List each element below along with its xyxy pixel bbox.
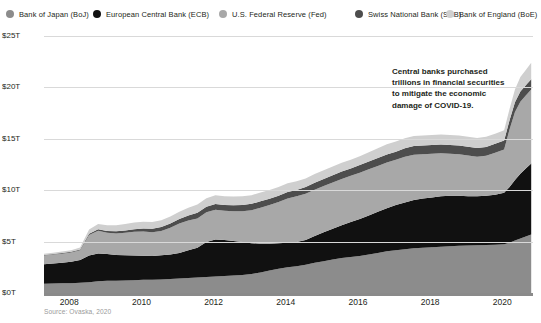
legend-swatch-boe-icon xyxy=(446,10,454,18)
covid-annotation: Central banks purchased trillions in fin… xyxy=(392,66,538,111)
y-tick-$0T: $0T xyxy=(2,288,42,297)
legend-label-fed: U.S. Federal Reserve (Fed) xyxy=(232,10,327,19)
y-tick-$5T: $5T xyxy=(2,237,42,246)
legend-item-boj[interactable]: Bank of Japan (BoJ) xyxy=(6,10,89,19)
x-tick-2018: 2018 xyxy=(421,297,440,307)
x-tick-2020: 2020 xyxy=(493,297,512,307)
legend-swatch-fed-icon xyxy=(219,10,227,18)
x-tick-2012: 2012 xyxy=(204,297,223,307)
legend-swatch-boj-icon xyxy=(6,10,14,18)
annotation-line-3: to mitigate the economic xyxy=(392,88,538,99)
source-note: Source: Ovaska, 2020 xyxy=(44,308,111,315)
annotation-line-4: damage of COVID-19. xyxy=(392,100,538,111)
gridline-$15T xyxy=(44,139,533,140)
y-tick-$15T: $15T xyxy=(2,134,42,143)
legend-item-ecb[interactable]: European Central Bank (ECB) xyxy=(93,10,209,19)
gridline-$10T xyxy=(44,190,533,191)
legend-label-boj: Bank of Japan (BoJ) xyxy=(19,10,89,19)
central-bank-balance-sheet-chart: Bank of Japan (BoJ)European Central Bank… xyxy=(0,0,541,323)
annotation-line-1: Central banks purchased xyxy=(392,66,538,77)
gridline-$5T xyxy=(44,242,533,243)
gridline-$25T xyxy=(44,36,533,37)
x-axis-baseline xyxy=(44,293,533,296)
x-tick-2008: 2008 xyxy=(60,297,79,307)
legend-item-fed[interactable]: U.S. Federal Reserve (Fed) xyxy=(219,10,327,19)
legend-label-boe: Bank of England (BoE) xyxy=(459,10,537,19)
x-tick-2010: 2010 xyxy=(132,297,151,307)
chart-legend: Bank of Japan (BoJ)European Central Bank… xyxy=(0,6,541,22)
y-tick-$20T: $20T xyxy=(2,82,42,91)
legend-label-ecb: European Central Bank (ECB) xyxy=(106,10,209,19)
legend-swatch-snb-icon xyxy=(355,10,363,18)
x-tick-2014: 2014 xyxy=(276,297,295,307)
legend-swatch-ecb-icon xyxy=(93,10,101,18)
legend-item-boe[interactable]: Bank of England (BoE) xyxy=(446,10,537,19)
y-tick-$25T: $25T xyxy=(2,31,42,40)
x-tick-2016: 2016 xyxy=(349,297,368,307)
annotation-line-2: trillions in financial securities xyxy=(392,77,538,88)
y-tick-$10T: $10T xyxy=(2,185,42,194)
